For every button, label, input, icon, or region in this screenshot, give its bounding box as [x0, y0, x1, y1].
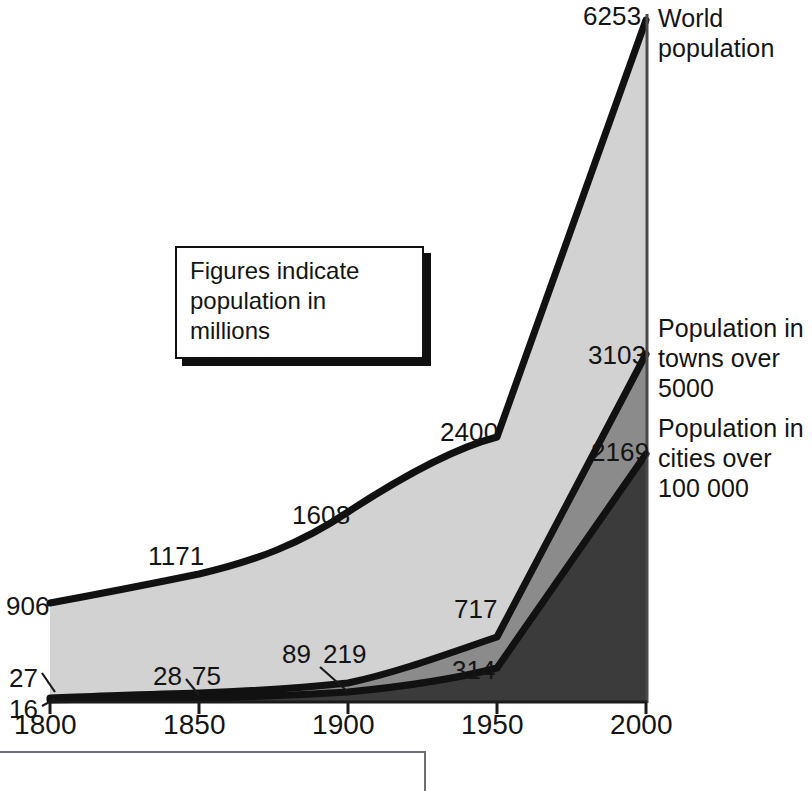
- x-tick-label-1900: 1900: [312, 708, 375, 741]
- annotation-callout: Figures indicate population in millions: [175, 246, 424, 359]
- x-tick-label-1800: 1800: [14, 708, 77, 741]
- series-label-world-population: World population: [658, 3, 774, 63]
- bottom-frame-border: [0, 751, 426, 791]
- series-label-towns-over-5000: Population in towns over 5000: [658, 313, 804, 403]
- value-label-cities-1850: 28: [153, 661, 182, 692]
- value-label-world-2000: 6253: [583, 1, 641, 32]
- x-tick-label-1950: 1950: [461, 708, 524, 741]
- value-label-world-1950: 2400: [440, 417, 498, 448]
- value-label-cities-1900: 89: [282, 639, 311, 670]
- value-label-towns-2000: 3103: [588, 340, 646, 371]
- x-tick-label-2000: 2000: [610, 708, 673, 741]
- value-label-world-1850: 1171: [148, 541, 204, 572]
- value-label-world-1900: 1608: [292, 500, 350, 531]
- value-label-towns-1800: 27: [9, 663, 38, 694]
- value-label-cities-1950: 314: [452, 655, 496, 686]
- value-label-world-1800: 906: [6, 591, 50, 622]
- value-label-towns-1900: 219: [323, 639, 367, 670]
- x-tick-label-1850: 1850: [163, 708, 226, 741]
- value-label-cities-2000: 2169: [591, 437, 649, 468]
- series-label-cities-over-100000: Population in cities over 100 000: [658, 413, 804, 503]
- value-label-towns-1950: 717: [454, 594, 498, 625]
- value-label-towns-1850: 75: [192, 661, 221, 692]
